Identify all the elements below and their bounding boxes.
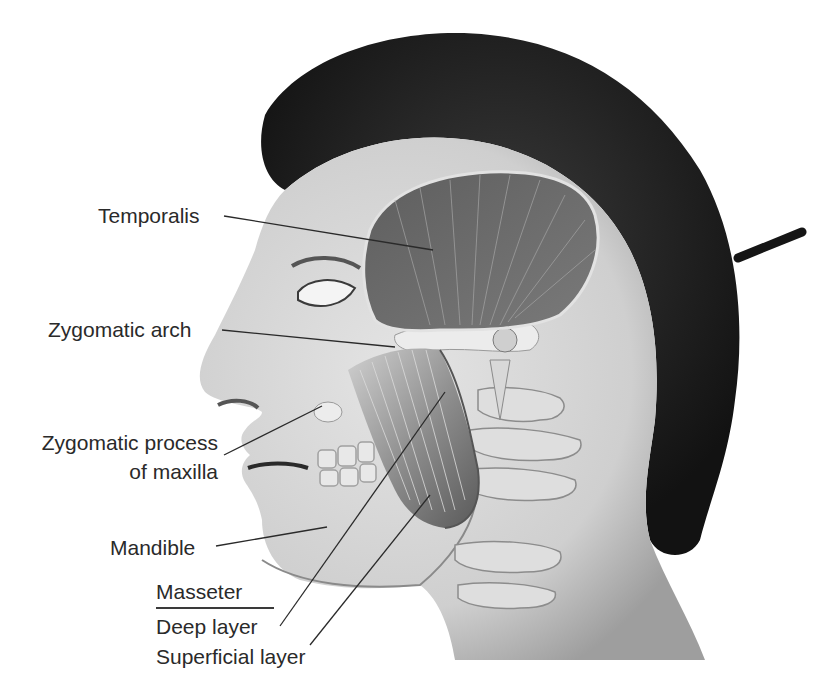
label-zygomatic-arch: Zygomatic arch [48,318,192,342]
label-masseter-heading: Masseter [156,580,242,604]
anatomy-figure: Temporalis Zygomatic arch Zygomatic proc… [0,0,817,690]
head-illustration [0,0,817,690]
label-mandible: Mandible [110,536,195,560]
label-temporalis: Temporalis [98,204,200,228]
label-zygomatic-process-line2: of maxilla [0,460,218,484]
hair-pin [738,232,802,258]
temporalis-muscle [364,172,598,331]
masseter-divider [156,607,274,609]
label-zygomatic-process-line1: Zygomatic process [0,431,218,455]
label-superficial-layer: Superficial layer [156,645,305,669]
zygomatic-process [314,402,342,422]
label-deep-layer: Deep layer [156,615,258,639]
ear-canal [493,328,517,352]
